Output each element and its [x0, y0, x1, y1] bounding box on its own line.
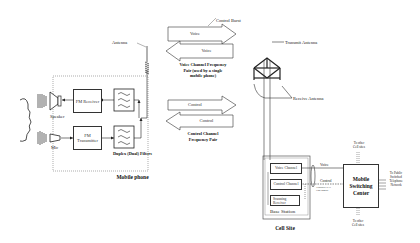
control-uplink-label: Control [168, 102, 222, 107]
to-other-cells-top: To other Cell sites [352, 141, 366, 149]
control-channel-box: Control Channel [270, 179, 302, 190]
control-pair-caption: Control Channel Frequency Pair [178, 131, 228, 142]
antenna-label: Antenna [112, 40, 127, 45]
control-downlink-label: Control [180, 118, 233, 123]
scanning-receiver-box: Scanning Receiver [270, 195, 300, 206]
voice-pair-caption: Voice Channel Frequency Pair (used by a … [178, 62, 228, 79]
cell-site-title: Cell Site [268, 225, 302, 231]
duplex-filters-label: Duplex (Dual) Filters [113, 151, 153, 156]
voice-downlink-label: Voice [180, 48, 233, 53]
msc-box: Mobile Switching Center [343, 164, 379, 208]
to-other-cells-bottom: To other Cell sites [350, 219, 366, 227]
control-burst-label: Control Burst [216, 18, 241, 23]
to-pstn-label: To Public Switched Telephone Network [387, 171, 405, 187]
transmit-antenna-label: Transmit Antenna [285, 40, 317, 45]
link-note: Typically a T1 Line/digital [316, 186, 340, 192]
mic-label: Mic [51, 145, 58, 150]
mobile-phone-title: Mobile phone [110, 174, 155, 180]
base-station-label: Base Station [270, 209, 295, 214]
voice-channel-box: Voice Channel [270, 163, 302, 174]
receive-antenna-label: Receive Antenna [293, 96, 324, 101]
voice-link-label: Voice [320, 163, 329, 168]
fm-transmitter-box: FM Transmitter [73, 126, 102, 150]
speaker-label: Speaker [50, 114, 65, 119]
fm-receiver-box: FM Receiver [73, 89, 102, 113]
voice-uplink-label: Voice [168, 31, 222, 36]
control-link-label: Control [320, 179, 332, 184]
